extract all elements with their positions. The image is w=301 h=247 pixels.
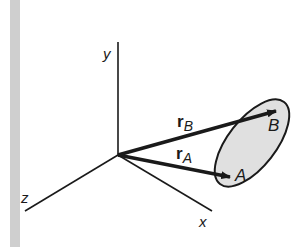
y-axis-label: y	[102, 45, 112, 62]
vector-diagram: y z x rB rA B A	[0, 0, 301, 247]
vector-r-a-subscript: A	[182, 150, 192, 166]
body-region	[201, 87, 301, 199]
z-axis-label: z	[20, 189, 29, 206]
vector-r-b-subscript: B	[184, 118, 193, 134]
z-axis	[25, 155, 118, 211]
point-a-label: A	[234, 166, 246, 185]
x-axis-label: x	[198, 213, 207, 230]
vector-r-a-label: rA	[176, 144, 192, 166]
point-b-label: B	[268, 116, 279, 135]
vector-r-a	[118, 155, 230, 177]
vector-r-b-label: rB	[177, 112, 193, 134]
